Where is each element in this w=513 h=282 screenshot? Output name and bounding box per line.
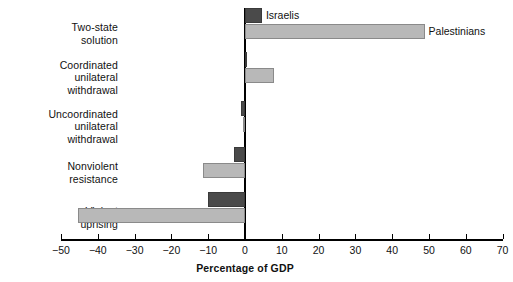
bar-chart: −50−40−30−20−10010203040506070Percentage… (0, 0, 513, 282)
x-axis-tick-label: 40 (372, 244, 412, 256)
x-axis-tick (135, 234, 136, 239)
bar-palestinians (243, 117, 245, 132)
x-axis-tick (392, 234, 393, 239)
x-axis-tick-label: 50 (409, 244, 449, 256)
x-axis-tick-label: −40 (78, 244, 118, 256)
x-axis-tick (503, 234, 504, 239)
bar-israelis (245, 52, 247, 67)
x-axis-tick-label: −10 (188, 244, 228, 256)
bar-palestinians (245, 68, 274, 83)
x-axis-tick (61, 234, 62, 239)
bar-israelis (208, 192, 245, 207)
x-axis-tick (208, 234, 209, 239)
x-axis-tick (171, 234, 172, 239)
x-axis-tick-label: 30 (335, 244, 375, 256)
x-axis-tick (98, 234, 99, 239)
x-axis-tick (319, 234, 320, 239)
bar-israelis (234, 147, 245, 162)
x-axis-tick-label: −50 (41, 244, 81, 256)
x-axis-tick (429, 234, 430, 239)
x-axis-tick (282, 234, 283, 239)
x-axis-tick-label: 60 (446, 244, 486, 256)
x-axis-tick-label: 0 (225, 244, 265, 256)
x-axis-tick (466, 234, 467, 239)
bar-israelis (241, 101, 245, 116)
category-label: Two-state solution (0, 21, 118, 46)
category-label: Nonviolent resistance (0, 160, 118, 185)
series-label-israelis: Israelis (266, 9, 299, 21)
bar-palestinians (245, 24, 425, 39)
x-axis-tick (355, 234, 356, 239)
bar-israelis (245, 8, 262, 23)
x-axis-tick-label: 70 (483, 244, 513, 256)
bar-palestinians (78, 208, 245, 223)
category-label: Uncoordinated unilateral withdrawal (0, 108, 118, 146)
x-axis-tick-label: 20 (299, 244, 339, 256)
x-axis-tick-label: 10 (262, 244, 302, 256)
x-axis-tick-label: −30 (115, 244, 155, 256)
x-axis-title: Percentage of GDP (155, 262, 335, 274)
bar-palestinians (203, 163, 245, 178)
x-axis-tick (245, 234, 246, 239)
x-axis-line (61, 239, 503, 241)
series-label-palestinians: Palestinians (429, 25, 486, 37)
x-axis-tick-label: −20 (151, 244, 191, 256)
category-label: Coordinated unilateral withdrawal (0, 59, 118, 97)
